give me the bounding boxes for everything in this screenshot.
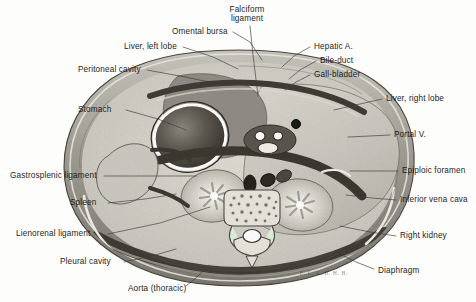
label-aorta-thoracic: Aorta (thoracic): [128, 284, 186, 293]
label-spleen: Spleen: [70, 198, 96, 207]
label-stomach: Stomach: [78, 105, 111, 114]
label-hepatic-artery: Hepatic A.: [314, 42, 353, 51]
label-right-kidney: Right kidney: [400, 231, 447, 240]
label-omental-bursa: Omental bursa: [172, 27, 228, 36]
label-epiploic-foramen: Epiploic foramen: [402, 166, 465, 175]
label-bile-duct: Bile-duct: [320, 56, 353, 65]
gall-bladder-lumen: [292, 120, 301, 129]
label-peritoneal-cavity: Peritoneal cavity: [78, 65, 141, 74]
hepatic-artery-lumen: [255, 132, 265, 141]
label-liver-right-lobe: Liver, right lobe: [386, 94, 444, 103]
label-lienorenal-ligament: Lienorenal ligament: [16, 229, 90, 238]
label-inferior-vena-cava: Inferior vena cava: [400, 195, 468, 204]
label-diaphragm: Diaphragm: [378, 266, 419, 275]
specimen-body: E. L. A. B. H. B.: [64, 50, 414, 286]
label-liver-left-lobe: Liver, left lobe: [124, 42, 177, 51]
label-falciform-ligament: Falciform ligament: [218, 5, 276, 23]
artist-signature: E. L. A. B. H. B.: [300, 270, 348, 276]
label-pleural-cavity: Pleural cavity: [60, 257, 111, 266]
spinal-canal: [243, 230, 261, 243]
bile-duct-lumen: [274, 132, 283, 140]
label-gall-bladder: Gall-bladder: [314, 70, 360, 79]
label-portal-vein: Portal V.: [394, 130, 426, 139]
portal-vein-lumen: [258, 143, 278, 154]
label-gastrosplenic-ligament: Gastrosplenic ligament: [10, 171, 97, 180]
